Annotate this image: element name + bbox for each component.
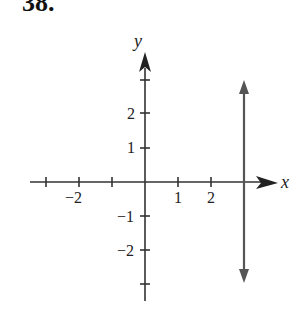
y-axis-label: y (132, 31, 142, 51)
x-axis-label: x (280, 172, 289, 192)
x-tick-label: 1 (174, 189, 182, 206)
x-tick-label: 2 (207, 189, 215, 206)
y-tick-label: −1 (117, 208, 134, 225)
line-bottom-arrow-icon (239, 269, 249, 283)
y-tick-label: −2 (117, 242, 134, 259)
y-axis (140, 68, 150, 301)
line-top-arrow-icon (239, 80, 249, 94)
y-tick-label: 2 (127, 105, 135, 122)
y-tick-label: 1 (127, 139, 135, 156)
x-axis (30, 177, 268, 187)
x-tick-label: −2 (65, 189, 82, 206)
coordinate-plane: x y −2 1 2 2 1 −1 −2 (0, 0, 307, 321)
